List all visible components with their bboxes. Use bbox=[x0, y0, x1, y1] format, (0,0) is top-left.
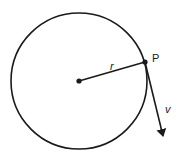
velocity-label: v bbox=[165, 103, 172, 115]
point-label: P bbox=[152, 52, 159, 64]
circular-motion-diagram: r P v bbox=[0, 0, 181, 160]
velocity-vector bbox=[145, 62, 163, 136]
center-dot bbox=[76, 78, 81, 83]
